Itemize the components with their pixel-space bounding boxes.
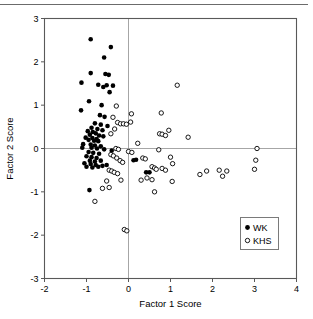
data-point-wk (90, 165, 95, 170)
data-point-wk (95, 146, 100, 151)
x-axis-tick-label: 3 (252, 284, 257, 294)
data-point-khs (130, 150, 134, 154)
data-point-wk (79, 108, 84, 113)
data-point-wk (109, 45, 114, 50)
data-point-wk (80, 145, 85, 150)
data-point-khs (145, 176, 149, 180)
data-point-wk (101, 134, 106, 139)
data-point-wk (98, 158, 103, 163)
data-point-khs (116, 147, 120, 151)
data-point-wk (87, 99, 92, 104)
data-point-khs (163, 133, 167, 137)
data-point-khs (220, 174, 224, 178)
data-point-wk (106, 73, 111, 78)
data-point-wk (79, 80, 84, 85)
data-point-khs (136, 141, 140, 145)
legend-label-wk: WK (253, 223, 268, 233)
data-point-khs (255, 146, 259, 150)
y-axis-tick-label: -3 (30, 274, 38, 284)
data-point-khs (124, 122, 128, 126)
data-point-wk (98, 113, 103, 118)
data-point-wk (86, 138, 91, 143)
data-point-wk (98, 122, 103, 127)
data-point-wk (107, 90, 112, 95)
data-point-wk (96, 164, 101, 169)
data-point-wk (89, 145, 94, 150)
data-point-wk (84, 154, 89, 159)
data-point-khs (204, 169, 208, 173)
data-point-khs (252, 167, 256, 171)
data-point-wk (99, 103, 104, 108)
y-axis-title: Factor 2 Score (4, 117, 15, 179)
data-point-khs (152, 190, 156, 194)
data-point-wk (96, 139, 101, 144)
data-point-khs (125, 229, 129, 233)
y-axis-tick-label: -1 (30, 187, 38, 197)
data-point-wk (102, 147, 107, 152)
scatter-plot-figure: -3-2-10123-2-101234Factor 1 ScoreFactor … (0, 0, 313, 319)
x-axis-tick-label: 0 (126, 284, 131, 294)
data-point-wk (111, 83, 116, 88)
data-point-khs (150, 178, 154, 182)
data-point-khs (159, 111, 163, 115)
chart-legend: WKKHS (241, 218, 279, 250)
data-point-khs (254, 158, 258, 162)
series-khs-points (93, 83, 260, 233)
data-point-khs (100, 186, 104, 190)
data-point-wk (134, 157, 139, 162)
data-point-wk (93, 121, 98, 126)
x-axis-tick-label: -2 (40, 284, 48, 294)
y-axis-tick-label: -2 (30, 230, 38, 240)
data-point-khs (217, 168, 221, 172)
data-point-khs (170, 161, 174, 165)
data-point-khs (163, 168, 167, 172)
series-wk-points (79, 37, 152, 192)
data-point-khs (139, 178, 143, 182)
data-point-khs (120, 160, 124, 164)
data-point-khs (154, 167, 158, 171)
y-axis-tick-label: 2 (33, 57, 38, 67)
data-point-wk (100, 164, 105, 169)
x-axis-tick-label: -1 (82, 284, 90, 294)
y-axis-tick-label: 1 (33, 100, 38, 110)
data-point-khs (157, 148, 161, 152)
data-point-khs (167, 128, 171, 132)
data-point-khs (114, 104, 118, 108)
data-point-khs (175, 83, 179, 87)
y-axis-tick-label: 3 (33, 14, 38, 24)
data-point-wk (105, 124, 110, 129)
data-point-khs (93, 199, 97, 203)
data-point-khs (128, 120, 132, 124)
data-point-khs (170, 179, 174, 183)
data-point-khs (225, 169, 229, 173)
data-point-khs (109, 132, 113, 136)
data-point-khs (186, 135, 190, 139)
data-point-wk (95, 127, 100, 132)
data-point-wk (102, 55, 107, 60)
data-point-wk (86, 150, 91, 155)
legend-marker-wk-icon (245, 225, 250, 230)
data-point-khs (115, 171, 119, 175)
x-axis-tick-label: 1 (168, 284, 173, 294)
data-point-wk (88, 71, 93, 76)
legend-marker-khs-icon (245, 238, 249, 242)
data-point-wk (91, 151, 96, 156)
data-point-khs (104, 179, 108, 183)
data-point-khs (112, 127, 116, 131)
y-axis-tick-label: 0 (33, 144, 38, 154)
data-point-khs (119, 178, 123, 182)
data-point-wk (104, 163, 109, 168)
data-point-wk (97, 151, 102, 156)
x-axis-tick-label: 2 (210, 284, 215, 294)
data-point-wk (87, 188, 92, 193)
data-point-wk (147, 170, 152, 175)
data-point-wk (102, 115, 107, 120)
data-point-wk (101, 85, 106, 90)
data-point-khs (168, 155, 172, 159)
data-point-wk (88, 37, 93, 42)
data-point-khs (198, 172, 202, 176)
data-point-wk (89, 125, 94, 130)
data-point-khs (143, 157, 147, 161)
data-point-wk (96, 83, 101, 88)
factor-score-scatter-chart: -3-2-10123-2-101234Factor 1 ScoreFactor … (0, 0, 313, 319)
